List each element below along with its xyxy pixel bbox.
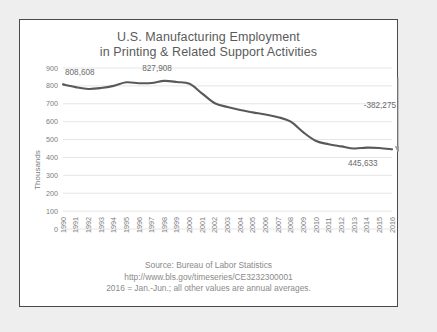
x-axis-tick-label: 1997: [147, 217, 156, 233]
x-axis-tick-label: 2002: [210, 217, 219, 233]
x-axis-tick-label: 1991: [71, 217, 80, 233]
annotations-group: 808,608 827,908 445,633 -382,275: [65, 64, 399, 168]
footer-url: http://www.bls.gov/timeseries/CE32323000…: [20, 272, 397, 284]
change-value-label: -382,275: [364, 101, 397, 110]
chart-footer: Source: Bureau of Labor Statistics http:…: [20, 260, 397, 295]
x-axis-tick-label: 2009: [299, 217, 308, 233]
y-axis-tick-label: 500: [46, 135, 58, 144]
y-axis-tick-labels: 0100200300400500600700800900: [46, 64, 58, 234]
data-line-series: [63, 81, 392, 149]
start-value-label: 808,608: [65, 68, 95, 77]
x-axis-tick-label: 2005: [248, 217, 257, 233]
x-axis-tick-label: 2000: [185, 217, 194, 233]
x-axis-tick-label: 1995: [122, 217, 131, 233]
chart-card: U.S. Manufacturing Employment in Printin…: [19, 19, 398, 307]
y-axis-tick-label: 200: [46, 189, 58, 198]
y-axis-tick-label: 100: [46, 207, 58, 216]
y-axis-tick-label: 600: [46, 117, 58, 126]
x-axis-tick-label: 2011: [324, 218, 333, 233]
y-axis-tick-label: 900: [46, 64, 58, 73]
x-axis-tick-label: 1998: [160, 217, 169, 233]
x-axis-tick-label: 1992: [84, 217, 93, 233]
y-axis-tick-label: 800: [46, 81, 58, 90]
x-axis-tick-label: 2013: [350, 217, 359, 233]
x-axis-tick-label: 2014: [362, 217, 371, 233]
y-axis-tick-label: 0: [54, 225, 58, 234]
x-axis-tick-label: 2004: [236, 217, 245, 233]
end-value-label: 445,633: [348, 159, 378, 168]
x-axis-tick-label: 2016: [388, 217, 397, 233]
x-axis-tick-label: 2006: [261, 217, 270, 233]
x-axis-tick-label: 2001: [198, 217, 207, 233]
x-axis-tick-label: 2003: [223, 217, 232, 233]
x-axis-tick-label: 2010: [312, 217, 321, 233]
x-axis-tick-label: 1990: [59, 217, 68, 233]
gridlines: [63, 68, 392, 229]
footer-note: 2016 = Jan.-Jun.; all other values are a…: [20, 283, 397, 295]
x-axis-tick-label: 1999: [172, 217, 181, 233]
x-axis-tick-label: 2015: [375, 217, 384, 233]
y-axis-title: Thousands: [33, 150, 42, 190]
x-axis-tick-label: 1996: [135, 217, 144, 233]
footer-source: Source: Bureau of Labor Statistics: [20, 260, 397, 272]
peak-value-label: 827,908: [142, 64, 172, 73]
x-axis-tick-label: 1994: [109, 217, 118, 233]
y-axis-tick-label: 700: [46, 99, 58, 108]
x-axis-tick-labels: 1990199119921993199419951996199719981999…: [59, 217, 397, 233]
x-axis-tick-label: 2008: [286, 217, 295, 233]
x-axis-tick-label: 2007: [274, 217, 283, 233]
y-axis-tick-label: 300: [46, 171, 58, 180]
y-axis-tick-label: 400: [46, 153, 58, 162]
x-axis-tick-label: 2012: [337, 217, 346, 233]
change-arrow-head: [395, 146, 399, 153]
x-axis-tick-label: 1993: [97, 217, 106, 233]
